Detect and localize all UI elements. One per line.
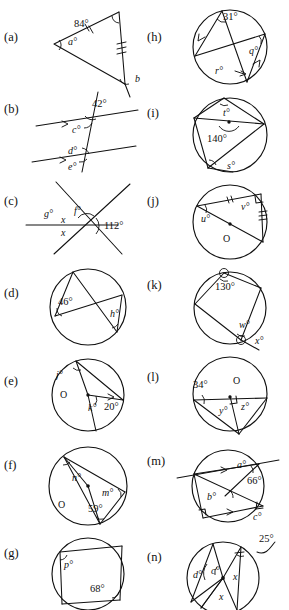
angle-value-130: 130° xyxy=(215,282,235,293)
figure-n: (n) xyxy=(145,534,289,610)
angle-label-h: h° xyxy=(110,309,119,319)
angle-value-112: 112° xyxy=(104,221,124,232)
angle-value-59: 59° xyxy=(88,504,103,515)
figure-k-drawing: 130° w° x° xyxy=(175,266,287,350)
angle-label-d-n: d° xyxy=(193,570,202,580)
part-label-m: (m) xyxy=(147,454,165,469)
figure-l: (l) 34° O y° z° xyxy=(145,352,289,440)
worksheet-page: (a) 84° a° b (b) xyxy=(0,0,289,610)
figure-j: (j) u° v° O xyxy=(145,180,289,266)
angle-value-84: 84° xyxy=(74,19,89,30)
angle-label-j: j° xyxy=(56,370,63,380)
figure-g: (g) p° 68° xyxy=(0,534,144,610)
centre-label-f: O xyxy=(58,500,65,510)
figure-d: (d) 46° h° xyxy=(0,264,144,352)
triangle-diagram-a xyxy=(26,4,144,90)
figure-b-drawing: 42° c° d° e° xyxy=(26,92,144,178)
angle-label-g: g° xyxy=(44,209,53,219)
angle-label-b: b xyxy=(135,74,140,84)
angle-label-w: w° xyxy=(239,320,250,330)
figure-e: (e) j° O k° 20° xyxy=(0,352,144,440)
part-label-h: (h) xyxy=(147,30,162,45)
figure-m-drawing: a° 66° b° c° xyxy=(173,440,287,528)
figure-a-drawing: 84° a° b xyxy=(26,4,144,90)
parallel-lines-diagram-b xyxy=(26,92,144,178)
angle-value-140: 140° xyxy=(207,134,227,145)
centre-label-e: O xyxy=(60,390,67,400)
angle-label-b-m: b° xyxy=(207,492,216,502)
angle-label-y: y° xyxy=(219,406,227,416)
angle-label-m: m° xyxy=(102,488,113,498)
circle-diagram-l xyxy=(175,352,287,438)
figure-c: (c) g° f° x x 112° xyxy=(0,180,144,264)
part-label-e: (e) xyxy=(4,374,18,389)
figure-k: (k) 130° w° x° xyxy=(145,266,289,352)
angle-label-q: q° xyxy=(249,46,258,56)
angle-value-34: 34° xyxy=(193,380,208,391)
angle-value-20: 20° xyxy=(104,402,119,413)
figure-l-drawing: 34° O y° z° xyxy=(175,352,287,438)
angle-label-s: s° xyxy=(227,161,235,171)
angle-label-t: t° xyxy=(223,108,230,118)
part-label-d: (d) xyxy=(4,286,19,301)
figure-h: (h) 31° q° r° xyxy=(145,4,289,92)
figure-i: (i) t° 140° s° xyxy=(145,92,289,180)
figure-i-drawing: t° 140° s° xyxy=(175,92,287,178)
circle-diagram-n xyxy=(171,534,287,610)
angle-value-46: 46° xyxy=(58,297,73,308)
circle-diagram-k xyxy=(175,266,287,350)
circle-diagram-d xyxy=(26,264,144,350)
part-label-f: (f) xyxy=(4,458,17,473)
circle-diagram-e xyxy=(26,352,144,438)
angle-label-n: n° xyxy=(72,473,81,483)
angle-label-f: f° xyxy=(74,206,81,216)
part-label-i: (i) xyxy=(147,106,159,121)
angle-label-a: a° xyxy=(68,37,77,47)
cyclic-quadrilateral-diagram-g xyxy=(26,534,144,610)
angle-label-e: e° xyxy=(68,162,76,172)
angle-label-x-right: x xyxy=(233,572,237,582)
part-label-b: (b) xyxy=(4,102,19,117)
figure-j-drawing: u° v° O xyxy=(175,180,287,264)
part-label-c: (c) xyxy=(4,194,18,209)
angle-value-66: 66° xyxy=(247,476,262,487)
angle-label-x-upper: x xyxy=(61,215,65,225)
circle-diagram-m xyxy=(173,440,287,528)
figure-c-drawing: g° f° x x 112° xyxy=(26,180,144,262)
angle-label-p: p° xyxy=(64,560,73,570)
intersecting-lines-diagram-c xyxy=(26,180,144,262)
angle-label-c: c° xyxy=(72,125,80,135)
figure-h-drawing: 31° q° r° xyxy=(175,4,287,90)
angle-value-31: 31° xyxy=(223,12,238,23)
left-column: (a) 84° a° b (b) xyxy=(0,0,144,610)
figure-d-drawing: 46° h° xyxy=(26,264,144,350)
figure-f: (f) n° m° O 59° xyxy=(0,440,144,530)
angle-label-r: r° xyxy=(215,66,223,76)
centre-label-l: O xyxy=(233,376,240,386)
angle-label-k: k° xyxy=(88,403,96,413)
figure-e-drawing: j° O k° 20° xyxy=(26,352,144,438)
right-column: (h) 31° q° r° xyxy=(145,0,289,610)
part-label-n: (n) xyxy=(147,550,162,565)
angle-label-c-m: c° xyxy=(253,512,261,522)
circle-diagram-f xyxy=(26,440,144,528)
figure-b: (b) 42° c° d° e° xyxy=(0,92,144,180)
angle-label-v: v° xyxy=(241,202,249,212)
angle-label-x-bottom: x xyxy=(219,592,223,602)
angle-label-u: u° xyxy=(201,214,210,224)
figure-g-drawing: p° 68° xyxy=(26,534,144,610)
circle-diagram-j xyxy=(175,180,287,264)
part-label-a: (a) xyxy=(4,30,18,45)
part-label-j: (j) xyxy=(147,194,159,209)
figure-m: (m) a° 66° xyxy=(145,440,289,530)
part-label-g: (g) xyxy=(4,546,19,561)
part-label-k: (k) xyxy=(147,278,162,293)
figure-n-drawing: 25° d° c° x x xyxy=(171,534,287,610)
figure-f-drawing: n° m° O 59° xyxy=(26,440,144,528)
angle-value-68: 68° xyxy=(90,584,105,595)
angle-label-d: d° xyxy=(68,146,77,156)
part-label-l: (l) xyxy=(147,370,159,385)
angle-label-a-m: a° xyxy=(237,460,246,470)
angle-label-c-n: c° xyxy=(211,566,219,576)
angle-label-x: x° xyxy=(255,336,263,346)
